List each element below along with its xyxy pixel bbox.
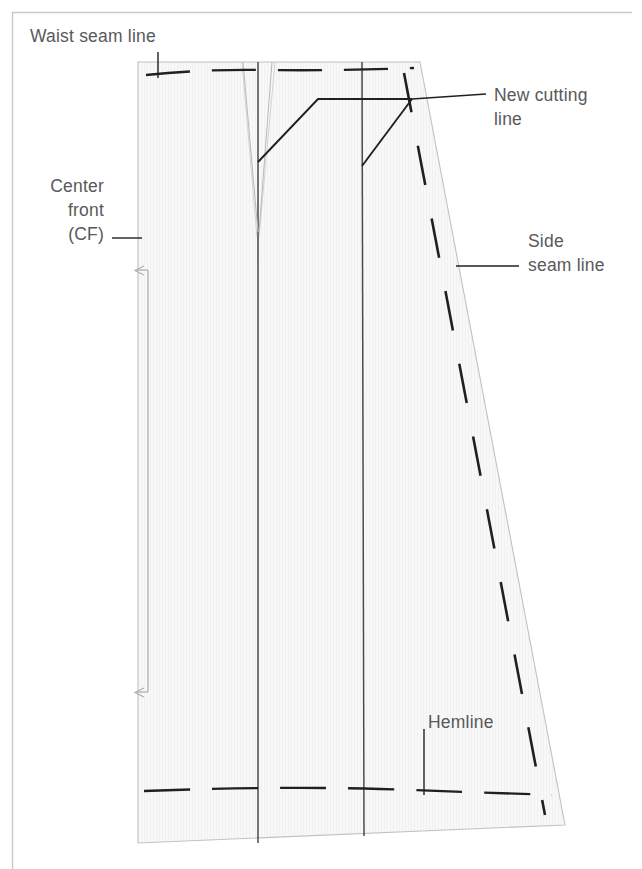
label-side-seam-line2: seam line bbox=[528, 255, 605, 275]
label-waist-seam: Waist seam line bbox=[30, 26, 156, 46]
label-hemline: Hemline bbox=[428, 712, 494, 732]
label-side-seam-line1: Side bbox=[528, 231, 564, 251]
pattern-diagram-page: Waist seam line Center front (CF) New cu… bbox=[0, 0, 642, 869]
pattern-piece bbox=[138, 62, 565, 843]
label-new-cutting-line2: line bbox=[494, 109, 522, 129]
label-new-cutting-line1: New cutting bbox=[494, 85, 588, 105]
pattern-outline bbox=[138, 62, 565, 843]
label-center-front-line3: (CF) bbox=[68, 224, 104, 244]
pattern-diagram-svg: Waist seam line Center front (CF) New cu… bbox=[0, 0, 642, 869]
label-center-front-line1: Center bbox=[50, 176, 104, 196]
label-center-front-line2: front bbox=[68, 200, 104, 220]
